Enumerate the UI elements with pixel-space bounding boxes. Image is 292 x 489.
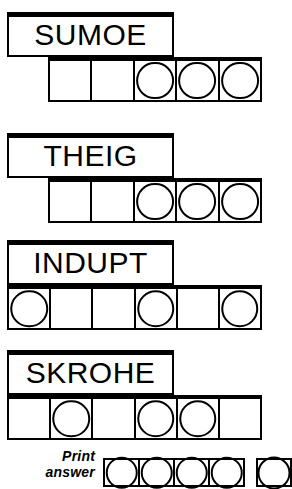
answer-cell-circled[interactable] — [51, 399, 93, 438]
answer-cell[interactable] — [178, 289, 220, 328]
answer-cell-circled[interactable] — [220, 289, 260, 328]
answer-circle-icon — [221, 62, 259, 100]
answer-circle-icon — [140, 456, 173, 489]
answer-letter-row[interactable] — [48, 57, 262, 102]
print-answer-label: Print answer — [15, 448, 95, 480]
answer-circle-icon — [175, 456, 208, 489]
answer-letter-row[interactable] — [7, 285, 262, 330]
answer-circle-icon — [10, 290, 48, 328]
answer-circle-icon — [179, 183, 217, 221]
answer-circle-icon — [137, 290, 175, 328]
answer-circle-icon — [210, 456, 243, 489]
scrambled-word-box: THEIG — [7, 133, 174, 178]
scrambled-word-text: SKROHE — [26, 358, 156, 388]
print-answer-cell[interactable] — [175, 460, 210, 485]
answer-cell-circled[interactable] — [220, 182, 260, 221]
answer-circle-icon — [137, 400, 175, 438]
answer-cell[interactable] — [50, 182, 92, 221]
print-answer-block: Print answer — [0, 448, 271, 487]
scrambled-word-box: SUMOE — [7, 12, 174, 57]
print-answer-cell[interactable] — [105, 460, 140, 485]
answer-cell-circled[interactable] — [177, 182, 219, 221]
print-answer-cell[interactable] — [258, 460, 290, 485]
answer-cell[interactable] — [9, 399, 51, 438]
answer-circle-icon — [105, 456, 138, 489]
print-answer-label-line-1: Print — [15, 448, 95, 464]
answer-cell-circled[interactable] — [136, 399, 178, 438]
answer-cell-circled[interactable] — [9, 289, 51, 328]
scrambled-word-text: THEIG — [43, 141, 137, 171]
answer-circle-icon — [221, 183, 259, 221]
answer-cell-circled[interactable] — [177, 61, 219, 100]
answer-cell[interactable] — [51, 289, 93, 328]
answer-cell-circled[interactable] — [220, 61, 260, 100]
print-answer-circle-row[interactable] — [103, 458, 245, 487]
answer-letter-row[interactable] — [7, 395, 262, 440]
scrambled-word-box: INDUPT — [7, 240, 174, 285]
puzzle-sheet: SUMOETHEIGINDUPTSKROHE Print answer — [0, 0, 271, 487]
answer-cell[interactable] — [93, 289, 135, 328]
answer-letter-row[interactable] — [48, 178, 262, 223]
answer-cell-circled[interactable] — [136, 289, 178, 328]
answer-circle-icon — [258, 456, 291, 489]
print-answer-cell[interactable] — [140, 460, 175, 485]
answer-circle-icon — [136, 183, 174, 221]
scrambled-word-text: SUMOE — [34, 20, 147, 50]
answer-cell[interactable] — [220, 399, 260, 438]
answer-cell[interactable] — [50, 61, 92, 100]
answer-cell[interactable] — [93, 399, 135, 438]
scrambled-word-text: INDUPT — [33, 248, 148, 278]
answer-cell-circled[interactable] — [135, 182, 177, 221]
print-answer-circle-row-overflow[interactable] — [256, 458, 292, 487]
answer-circle-icon — [136, 62, 174, 100]
answer-circle-icon — [53, 400, 91, 438]
print-answer-cell[interactable] — [210, 460, 243, 485]
answer-circle-icon — [179, 62, 217, 100]
answer-circle-icon — [221, 290, 259, 328]
print-answer-label-line-2: answer — [15, 464, 95, 480]
scrambled-word-box: SKROHE — [7, 350, 174, 395]
answer-cell-circled[interactable] — [178, 399, 220, 438]
answer-circle-icon — [179, 400, 217, 438]
answer-cell-circled[interactable] — [135, 61, 177, 100]
answer-cell[interactable] — [92, 61, 134, 100]
answer-cell[interactable] — [92, 182, 134, 221]
